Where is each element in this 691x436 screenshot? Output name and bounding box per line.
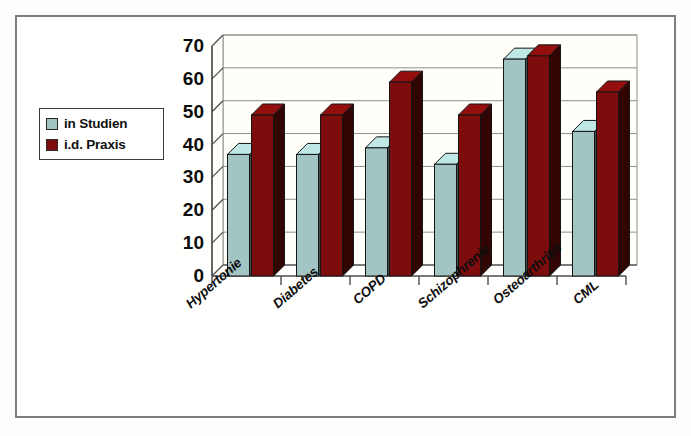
bar-side-face [274, 104, 285, 276]
bar-front-face [435, 164, 457, 276]
bar-cml-idpraxis [597, 81, 630, 276]
bar-hypertonie-idpraxis [252, 104, 285, 276]
y-tick-label-70: 70 [168, 36, 204, 55]
y-tick-label-20: 20 [168, 200, 204, 219]
bar-front-face [390, 82, 412, 276]
bar-side-face [619, 81, 630, 276]
bar-front-face [504, 59, 526, 276]
y-tick-label-50: 50 [168, 102, 204, 121]
y-tick-label-60: 60 [168, 69, 204, 88]
chart-legend: in Studien i.d. Praxis [39, 108, 164, 160]
y-tick-label-40: 40 [168, 135, 204, 154]
square-swatch-icon [46, 139, 58, 151]
bar-front-face [573, 131, 595, 276]
bar-diabetes-idpraxis [321, 104, 354, 276]
bar-front-face [528, 56, 550, 276]
legend-item-id-praxis[interactable]: i.d. Praxis [46, 134, 158, 155]
bar-front-face [321, 115, 343, 276]
bar-front-face [252, 115, 274, 276]
bar-front-face [366, 148, 388, 276]
chart-page: 010203040506070 HypertonieDiabetesCOPDSc… [0, 0, 691, 436]
bar-front-face [597, 92, 619, 276]
bar-side-face [412, 71, 423, 276]
y-tick-label-0: 0 [168, 266, 204, 285]
square-swatch-icon [46, 118, 58, 130]
chart-canvas [0, 0, 691, 436]
y-tick-label-30: 30 [168, 167, 204, 186]
legend-item-in-studien[interactable]: in Studien [46, 113, 158, 134]
bar-copd-idpraxis [390, 71, 423, 276]
bar-side-face [343, 104, 354, 276]
y-tick-label-10: 10 [168, 233, 204, 252]
bar-front-face [297, 154, 319, 276]
legend-label-id-praxis: i.d. Praxis [64, 137, 126, 152]
bar-chart [0, 0, 691, 436]
plot-side-wall [212, 35, 223, 276]
legend-label-in-studien: in Studien [64, 116, 127, 131]
